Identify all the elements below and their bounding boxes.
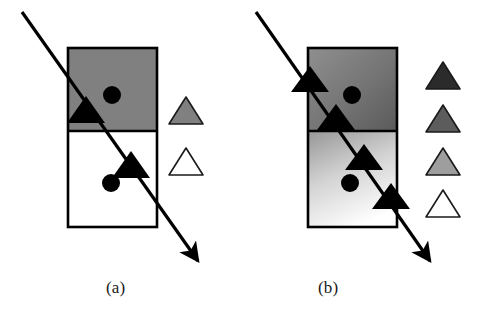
figure-root: (a) (b)	[0, 0, 480, 320]
panel-a-caption: (a)	[106, 278, 125, 298]
panel-b-caption: (b)	[318, 278, 338, 298]
panel-b-circle-lower	[341, 174, 359, 192]
panel-b-circle-upper	[343, 86, 361, 104]
panel-a-circle-upper	[103, 86, 121, 104]
figure-canvas	[0, 0, 480, 320]
